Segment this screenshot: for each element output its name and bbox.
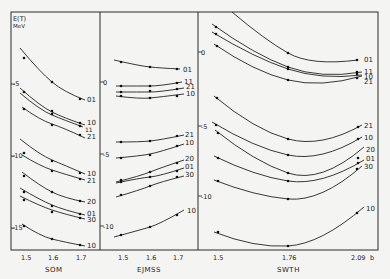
x-tick: 1.5	[21, 254, 31, 262]
series-label: 30	[364, 163, 373, 171]
x-tick: 1.7	[76, 254, 86, 262]
y-tick: -5	[201, 123, 207, 131]
y-tick: -5	[103, 151, 109, 159]
series-label: 30	[185, 171, 194, 179]
y-tick: -10	[201, 193, 212, 201]
x-tick: 1.7	[173, 254, 183, 262]
series-label: 01	[366, 155, 375, 163]
x-tick: 1.6	[48, 254, 58, 262]
panel-ejmss: 0 -5 -10 01 11 21 10 21 10 20 01 30	[100, 60, 196, 274]
x-tick: 1.6	[146, 254, 156, 262]
series-label: 10	[187, 207, 196, 215]
x-tick: 1.5	[213, 254, 223, 262]
series-label: 21	[87, 177, 96, 185]
series-label: 10	[366, 205, 375, 213]
x-tick: 1.76	[282, 254, 296, 262]
y-axis-label: E(T)	[13, 15, 26, 23]
y-tick: 0	[103, 79, 107, 87]
y-tick: -10	[12, 152, 23, 160]
series-label: 10	[87, 242, 96, 250]
series-label: 20	[185, 155, 194, 163]
y-axis-unit: MeV	[13, 23, 25, 29]
series-label: 10	[185, 139, 194, 147]
x-tick: 2.09	[351, 254, 365, 262]
chart-figure: E(T) MeV -5 -10 -15 01 10 11 21 10 21 20	[0, 0, 390, 279]
series-label: 20	[366, 146, 375, 154]
panel-title-ejmss: EJMSS	[137, 266, 161, 274]
y-tick: 0	[201, 49, 205, 57]
panel-title-swth: SWTH	[277, 266, 300, 274]
series-label: 21	[87, 133, 96, 141]
y-tick: -5	[13, 80, 19, 88]
panel-title-som: SOM	[45, 266, 63, 274]
y-tick: -10	[103, 223, 114, 231]
x-tick: 1.5	[118, 254, 128, 262]
series-label: 10	[186, 90, 195, 98]
series-label: 21	[185, 131, 194, 139]
series-label: 01	[183, 66, 192, 74]
series-label: 21	[364, 122, 373, 130]
series-label: 10	[364, 134, 373, 142]
series-label: 01	[364, 56, 373, 64]
panel-som: -5 -10 -15 01 10 11 21 10 21 20 01 30	[11, 48, 96, 274]
y-tick: -15	[12, 224, 23, 232]
series-label: 01	[87, 96, 96, 104]
x-axis-unit: b	[370, 254, 374, 262]
series-label: 21	[364, 78, 373, 86]
series-label: 20	[87, 198, 96, 206]
series-label: 30	[87, 216, 96, 224]
panel-swth: 0 -5 -10 01 11 10 21 21 10 20 01 30	[198, 12, 375, 274]
series-label: 11	[85, 126, 93, 133]
series-label: 01	[185, 163, 194, 171]
